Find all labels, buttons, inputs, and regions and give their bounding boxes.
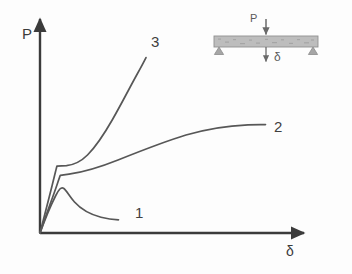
support-right-icon [308, 47, 317, 55]
curve-3 [40, 58, 146, 233]
beam-inset-svg [208, 6, 328, 72]
curve-label-3: 3 [151, 34, 159, 49]
x-axis-label: δ [286, 244, 294, 258]
inset-deflection-label: δ [274, 51, 281, 63]
curve-label-1: 1 [135, 205, 143, 220]
figure-canvas: P δ 1 2 3 [0, 0, 352, 274]
support-left-icon [214, 47, 223, 55]
inset-load-label: P [250, 13, 257, 24]
curve-label-2: 2 [274, 119, 282, 134]
beam-body [214, 36, 318, 47]
beam-inset-diagram: P δ [208, 6, 328, 72]
curve-1 [40, 188, 119, 233]
curve-2 [40, 125, 266, 233]
y-axis-label: P [22, 26, 32, 41]
